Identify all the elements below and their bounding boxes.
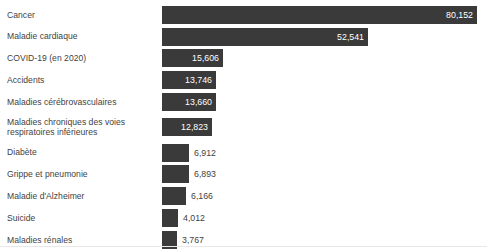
bar-value-label: 12,823 xyxy=(181,122,212,132)
bar-value-label: 80,152 xyxy=(446,10,477,20)
bar-chart: Cancer80,152Maladie cardiaque52,541COVID… xyxy=(0,0,487,252)
bar-value-label: 6,912 xyxy=(194,148,216,158)
bar-value-label: 13,746 xyxy=(185,75,216,85)
bar-category-label: Accidents xyxy=(7,75,159,85)
chart-rows: Cancer80,152Maladie cardiaque52,541COVID… xyxy=(0,0,487,246)
bar-category-label: Grippe et pneumonie xyxy=(7,169,159,179)
chart-baseline xyxy=(0,246,487,247)
bar[interactable] xyxy=(162,144,189,162)
bar-container: 12,823 xyxy=(162,113,212,142)
bar-category-label: Maladies cérébrovasculaires xyxy=(7,97,159,107)
bar-category-label: Maladie d'Alzheimer xyxy=(7,191,159,201)
bar[interactable] xyxy=(162,209,178,227)
bar-container: 15,606 xyxy=(162,48,223,70)
bar-container: 3,767 xyxy=(162,229,204,251)
table-row: Diabète6,912 xyxy=(0,142,487,164)
table-row: Cancer80,152 xyxy=(0,4,487,26)
bar-container: 13,746 xyxy=(162,69,216,91)
bar[interactable] xyxy=(162,165,189,183)
table-row: Grippe et pneumonie6,893 xyxy=(0,164,487,186)
bar-value-label: 13,660 xyxy=(185,97,216,107)
bar-container: 13,660 xyxy=(162,91,216,113)
bar[interactable]: 80,152 xyxy=(162,6,477,24)
bar-category-label: Cancer xyxy=(7,10,159,20)
table-row: Accidents13,746 xyxy=(0,69,487,91)
table-row: Maladies rénales3,767 xyxy=(0,229,487,251)
bar-value-label: 6,166 xyxy=(191,191,213,201)
bar[interactable]: 15,606 xyxy=(162,49,223,67)
bar-value-label: 3,767 xyxy=(182,235,204,245)
bar-category-label: Maladies rénales xyxy=(7,235,159,245)
table-row: Suicide4,012 xyxy=(0,207,487,229)
bar-value-label: 4,012 xyxy=(183,213,205,223)
bar[interactable]: 13,746 xyxy=(162,71,216,89)
bar-container: 52,541 xyxy=(162,26,368,48)
table-row: Maladie d'Alzheimer6,166 xyxy=(0,185,487,207)
table-row: COVID-19 (en 2020)15,606 xyxy=(0,48,487,70)
bar-container: 6,912 xyxy=(162,142,216,164)
table-row: Maladies chroniques des voies respiratoi… xyxy=(0,113,487,142)
bar-value-label: 6,893 xyxy=(194,169,216,179)
bar[interactable]: 52,541 xyxy=(162,28,368,46)
bar-category-label: COVID-19 (en 2020) xyxy=(7,53,159,63)
bar-container: 4,012 xyxy=(162,207,205,229)
bar[interactable]: 13,660 xyxy=(162,93,216,111)
bar-category-label: Maladie cardiaque xyxy=(7,31,159,41)
bar[interactable]: 12,823 xyxy=(162,118,212,136)
bar-category-label: Diabète xyxy=(7,147,159,157)
bar[interactable] xyxy=(162,187,186,205)
bar-category-label: Suicide xyxy=(7,213,159,223)
table-row: Maladies cérébrovasculaires13,660 xyxy=(0,91,487,113)
bar-value-label: 52,541 xyxy=(337,32,368,42)
bar-container: 6,166 xyxy=(162,185,213,207)
bar-container: 80,152 xyxy=(162,4,477,26)
bar-value-label: 15,606 xyxy=(192,53,223,63)
bar-container: 6,893 xyxy=(162,164,216,186)
table-row: Maladie cardiaque52,541 xyxy=(0,26,487,48)
bar-category-label: Maladies chroniques des voies respiratoi… xyxy=(7,117,159,138)
